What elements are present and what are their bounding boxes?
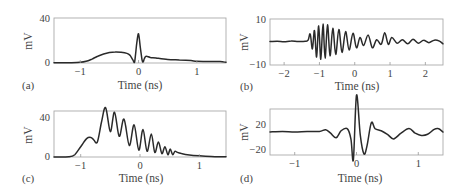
xtick-label: −1 — [75, 66, 86, 77]
panel-a-trace — [54, 34, 226, 63]
panel-d-xlabel: Time (ns) — [338, 172, 383, 185]
xtick-label: −1 — [289, 158, 300, 169]
xtick-label: 0 — [137, 160, 142, 171]
xtick-label: −1 — [75, 160, 86, 171]
panel-c-ylabel: mV — [22, 126, 34, 144]
panel-d-ylabel: mV — [238, 123, 250, 141]
panel-b-label: (b) — [240, 80, 253, 93]
panel-a-ylabel: mV — [22, 32, 34, 50]
panel-d-trace — [270, 95, 443, 161]
xtick-label: 2 — [423, 68, 428, 79]
figure-canvas: −101 40 0 mV Time (ns) (a) −2−1012 10 −1… — [0, 0, 468, 195]
panel-a-ytick-bottom: 0 — [45, 57, 50, 68]
panel-c: −101 40 0 mV Time (ns) (c) — [22, 107, 226, 185]
panel-a-ytick-top: 40 — [40, 13, 51, 24]
panel-d-label: (d) — [240, 172, 253, 185]
panel-d: −101 20 −20 mV Time (ns) (d) — [238, 95, 443, 185]
panel-b-ytick-bottom: −10 — [250, 59, 266, 70]
panel-b-ytick-top: 10 — [256, 14, 267, 25]
xtick-label: 1 — [416, 158, 421, 169]
panel-c-xlabel: Time (ns) — [119, 172, 164, 185]
panel-d-ytick-top: 20 — [256, 119, 267, 130]
panel-b-trace — [270, 24, 443, 59]
panel-c-ytick-top: 40 — [40, 112, 51, 123]
panel-d-ytick-bottom: −20 — [250, 144, 266, 155]
panel-c-label: (c) — [22, 172, 35, 185]
panel-b-ylabel: mV — [238, 33, 250, 51]
xtick-label: 0 — [352, 68, 357, 79]
panel-a-label: (a) — [22, 79, 35, 92]
xtick-label: 0 — [136, 66, 141, 77]
xtick-label: −2 — [279, 68, 290, 79]
xtick-label: 1 — [197, 160, 202, 171]
panel-c-frame — [54, 111, 226, 157]
panel-c-trace — [54, 107, 226, 157]
xtick-label: 1 — [387, 68, 392, 79]
panel-a: −101 40 0 mV Time (ns) (a) — [22, 13, 226, 92]
panel-b: −2−1012 10 −10 mV Time (ns) (b) — [238, 14, 443, 93]
xtick-label: 0 — [354, 158, 359, 169]
panel-c-ytick-bottom: 0 — [45, 151, 50, 162]
panel-b-xlabel: Time (ns) — [335, 80, 380, 93]
xtick-label: −1 — [314, 68, 325, 79]
xtick-label: 1 — [194, 66, 199, 77]
panel-a-xlabel: Time (ns) — [118, 79, 163, 92]
